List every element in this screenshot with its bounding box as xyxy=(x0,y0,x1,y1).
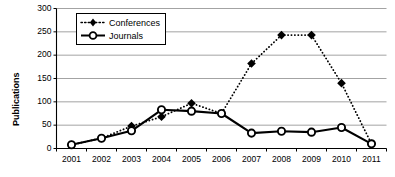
plot-area xyxy=(0,0,395,177)
data-point-marker xyxy=(188,108,195,115)
data-point-marker xyxy=(337,79,346,88)
legend-label-journals: Journals xyxy=(109,31,143,41)
conferences-series-icon xyxy=(80,17,106,28)
data-point-marker xyxy=(218,110,225,117)
publications-line-chart: Publications 300250200150100500 20012002… xyxy=(0,0,395,177)
legend-item-journals: Journals xyxy=(80,29,160,42)
data-point-marker xyxy=(158,106,165,113)
data-point-marker xyxy=(278,128,285,135)
data-point-marker xyxy=(338,124,345,131)
data-point-marker xyxy=(128,127,135,134)
chart-legend: Conferences Journals xyxy=(76,13,166,45)
data-point-marker xyxy=(68,141,75,148)
data-point-marker xyxy=(308,129,315,136)
series-line-conferences xyxy=(72,35,372,145)
data-point-marker xyxy=(248,130,255,137)
data-point-marker xyxy=(98,135,105,142)
journals-series-icon xyxy=(80,30,106,41)
data-point-marker xyxy=(368,140,375,147)
legend-item-conferences: Conferences xyxy=(80,16,160,29)
data-point-marker xyxy=(187,99,196,108)
legend-label-conferences: Conferences xyxy=(109,18,160,28)
